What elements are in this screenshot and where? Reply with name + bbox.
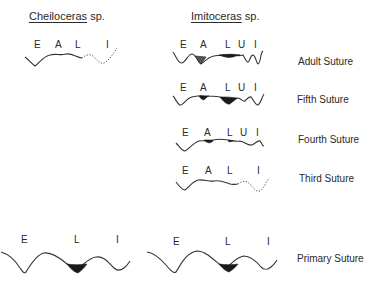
fifth-suture [173, 94, 264, 105]
third-suture [176, 178, 269, 191]
cheiloceras-primary-suture [1, 252, 130, 273]
imitoceras-primary-suture [147, 251, 277, 273]
fourth-suture [176, 139, 264, 151]
suture-drawings [0, 0, 376, 289]
cheiloceras-juvenile-suture [25, 48, 117, 66]
adult-suture [173, 51, 263, 64]
